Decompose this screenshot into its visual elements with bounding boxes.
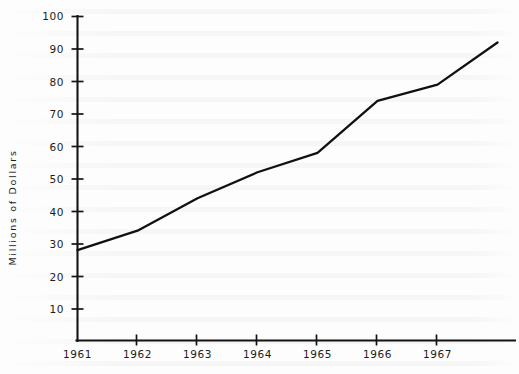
y-tick-label: 50 — [34, 173, 64, 185]
x-tick-label: 1967 — [423, 348, 452, 360]
x-tick-label: 1965 — [303, 348, 332, 360]
x-tick-label: 1964 — [243, 348, 272, 360]
y-tick-label: 10 — [34, 303, 64, 315]
y-tick-label: 90 — [34, 43, 64, 55]
line-chart-plot — [0, 0, 519, 374]
x-tick-label: 1962 — [123, 348, 152, 360]
y-tick-label: 30 — [34, 238, 64, 250]
y-tick-label: 20 — [34, 271, 64, 283]
y-tick-label: 80 — [34, 76, 64, 88]
y-tick-label: 70 — [34, 108, 64, 120]
chart-figure: 100 90 80 70 60 50 40 30 20 10 1961 1962… — [0, 0, 519, 374]
y-axis-label: Millions of Dollars — [7, 148, 18, 268]
y-tick-label: 100 — [34, 10, 64, 22]
y-tick-label: 40 — [34, 206, 64, 218]
x-tick-label: 1966 — [363, 348, 392, 360]
x-tick-label: 1963 — [183, 348, 212, 360]
x-tick-label: 1961 — [63, 348, 92, 360]
data-series-line — [78, 42, 498, 250]
y-tick-label: 60 — [34, 141, 64, 153]
